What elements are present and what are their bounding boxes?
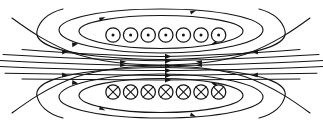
coil-center-dot [129,34,132,37]
current-into-page-symbol [106,85,120,99]
top-field-flare-left [12,18,161,65]
current-into-page-symbol [211,85,225,99]
coil-center-dot [164,34,167,37]
coil-center-dot [200,34,203,37]
current-out-of-page-symbol [141,28,155,42]
current-into-page-symbol [123,85,137,99]
arrowhead-center-1 [165,54,171,59]
field-diagram-canvas [0,0,323,131]
current-out-of-page-symbol [106,28,120,42]
coil-center-dot [182,34,185,37]
arrowhead-top-mid-top [190,10,196,14]
current-out-of-page-symbol [211,28,225,42]
magnetic-field-diagram [0,0,323,131]
current-out-of-page-symbol [159,28,173,42]
coil-center-dot [112,34,115,37]
bottom-field-flare-left [12,66,161,113]
central-field-line-6 [22,79,300,80]
current-into-page-symbol [159,85,173,99]
current-out-of-page-symbol [176,28,190,42]
current-out-of-page-symbol [194,28,208,42]
coil-center-dot [147,34,150,37]
arrowhead-center-4 [165,68,171,73]
bottom-coil-row [106,85,226,99]
current-into-page-symbol [194,85,208,99]
top-coil-row [106,28,226,42]
current-out-of-page-symbol [123,28,137,42]
coil-center-dot [217,34,220,37]
current-into-page-symbol [141,85,155,99]
current-into-page-symbol [176,85,190,99]
arrowhead-bottom-mid-bottom [190,113,196,117]
